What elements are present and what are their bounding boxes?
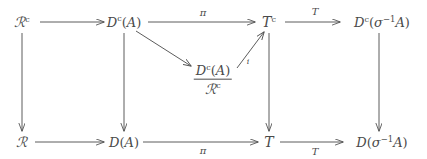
glyph-D: D bbox=[196, 63, 206, 78]
glyph-exponent-minus-one: −1 bbox=[383, 14, 396, 24]
glyph-D: D bbox=[356, 135, 366, 150]
glyph-right-paren: ) bbox=[225, 63, 230, 78]
glyph-right-paren: ) bbox=[136, 15, 141, 30]
glyph-A: A bbox=[125, 135, 134, 150]
glyph-script-T: T bbox=[264, 134, 273, 150]
glyph-script-T: T bbox=[262, 14, 271, 30]
glyph-right-paren: ) bbox=[134, 135, 139, 150]
glyph-superscript-c: c bbox=[271, 15, 275, 24]
arrow-label-bottom-pi: π bbox=[200, 146, 207, 156]
node-top-left: ℛc bbox=[14, 15, 29, 29]
fraction-numerator: Dc(A) bbox=[194, 64, 232, 79]
glyph-A: A bbox=[393, 135, 402, 150]
arrow-quotient-to-Tc bbox=[237, 32, 264, 68]
glyph-D: D bbox=[107, 15, 117, 30]
node-bottom-right: D(σ−1A) bbox=[356, 135, 407, 149]
node-top-second: Dc(A) bbox=[107, 15, 141, 28]
glyph-sigma: σ bbox=[374, 15, 383, 30]
fraction-denominator: ℛc bbox=[194, 81, 232, 97]
glyph-D: D bbox=[109, 135, 119, 150]
glyph-script-R: ℛ bbox=[16, 134, 27, 150]
glyph-superscript-c: c bbox=[25, 15, 29, 24]
glyph-D: D bbox=[354, 15, 364, 30]
glyph-right-paren: ) bbox=[405, 15, 410, 30]
node-bottom-third: T bbox=[264, 135, 273, 149]
arrow-label-top-T: T bbox=[312, 7, 319, 17]
glyph-superscript-c: c bbox=[216, 81, 220, 90]
arrow-label-bottom-T: T bbox=[312, 147, 319, 157]
glyph-right-paren: ) bbox=[403, 135, 408, 150]
commutative-diagram: ℛc Dc(A) Tc Dc(σ−1A) Dc(A) ℛc ℛ D(A) T D… bbox=[0, 0, 427, 159]
arrow-label-top-pi: π bbox=[200, 8, 207, 18]
fraction: Dc(A) ℛc bbox=[194, 64, 232, 97]
glyph-A: A bbox=[127, 15, 136, 30]
node-center-quotient: Dc(A) ℛc bbox=[194, 64, 232, 97]
node-top-right: Dc(σ−1A) bbox=[354, 15, 410, 29]
glyph-exponent-minus-one: −1 bbox=[381, 134, 394, 144]
arrow-label-diagonal-i: i bbox=[247, 58, 250, 66]
glyph-script-R: ℛ bbox=[205, 81, 216, 97]
node-top-third: Tc bbox=[262, 15, 276, 29]
node-bottom-left: ℛ bbox=[16, 135, 27, 149]
arrow-DcA-to-quotient bbox=[136, 31, 191, 66]
glyph-A: A bbox=[395, 15, 404, 30]
glyph-A: A bbox=[216, 63, 225, 78]
glyph-script-R: ℛ bbox=[14, 14, 25, 30]
node-bottom-second: D(A) bbox=[109, 136, 139, 149]
